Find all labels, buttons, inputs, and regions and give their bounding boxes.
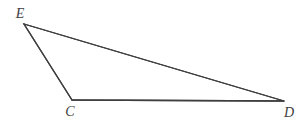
triangle-shape bbox=[0, 0, 301, 122]
geometry-figure-canvas: E C D bbox=[0, 0, 301, 122]
edge-e-to-c bbox=[24, 24, 72, 100]
vertex-label-d: D bbox=[284, 106, 294, 120]
vertex-label-e: E bbox=[16, 7, 25, 21]
vertex-label-c: C bbox=[65, 105, 74, 119]
edge-c-to-d bbox=[72, 100, 284, 101]
edge-e-to-d bbox=[24, 24, 284, 101]
